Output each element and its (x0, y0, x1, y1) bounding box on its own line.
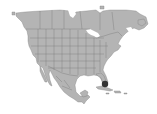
hispaniola (114, 91, 121, 93)
puerto-rico (124, 93, 127, 94)
map-container (0, 0, 157, 114)
alaska-tip (12, 12, 15, 15)
arctic-island (100, 6, 104, 9)
location-marker[interactable] (102, 81, 108, 87)
landmass-north-america (16, 10, 148, 104)
north-america-map (0, 0, 157, 114)
jamaica (106, 93, 109, 94)
